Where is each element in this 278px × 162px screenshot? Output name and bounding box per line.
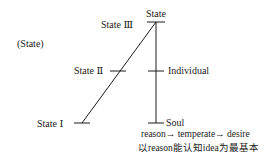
individual-label: Individual — [168, 65, 209, 76]
top-state-label: State — [146, 8, 166, 19]
caption-line-1: reason→ temperate→ desire — [141, 129, 250, 140]
state-3-label: State Ⅲ — [101, 19, 133, 30]
caption-line-2: 以reason能认知idea为最基本 — [138, 143, 259, 154]
soul-label: Soul — [166, 117, 184, 128]
side-state-label: (State) — [17, 38, 44, 49]
state-2-label: State Ⅱ — [74, 65, 103, 76]
state-1-label: State Ⅰ — [37, 118, 63, 129]
